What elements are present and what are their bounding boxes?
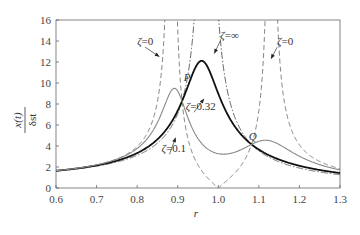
x-tick-label: 1.3 <box>333 193 347 205</box>
x-tick-label: 1.2 <box>293 193 307 205</box>
annotation-label: ζ=0.1 <box>161 142 185 155</box>
y-label-denominator: δst <box>26 114 38 127</box>
annotation-label: Q <box>249 130 257 142</box>
arrowhead-icon <box>155 53 160 57</box>
x-tick-label: 0.9 <box>171 193 185 205</box>
series-line <box>56 61 340 173</box>
y-tick-label: 4 <box>46 140 52 152</box>
y-tick-label: 16 <box>40 14 52 26</box>
series-line <box>56 0 340 175</box>
y-tick-label: 10 <box>40 77 52 89</box>
x-tick-label: 1.0 <box>211 193 225 205</box>
y-tick-label: 12 <box>40 56 51 68</box>
y-label-numerator: x(t) <box>11 112 24 129</box>
annotation-label: ζ=0.32 <box>186 100 216 113</box>
annotation-label: P <box>183 71 191 83</box>
y-tick-label: 8 <box>46 98 52 110</box>
series-line <box>56 0 340 188</box>
y-tick-label: 2 <box>46 161 52 173</box>
x-tick-label: 1.1 <box>252 193 266 205</box>
y-tick-label: 14 <box>40 35 52 47</box>
annotation-label: ζ=∞ <box>220 29 239 42</box>
x-tick-label: 0.6 <box>49 193 63 205</box>
x-tick-label: 0.7 <box>90 193 104 205</box>
x-tick-label: 0.8 <box>130 193 144 205</box>
y-axis-label: x(t) δst <box>11 107 38 133</box>
curves <box>56 0 340 188</box>
annotation-label: ζ=0 <box>137 35 154 48</box>
y-axis-ticks: 0246810121416 <box>40 14 59 194</box>
x-axis-label: r <box>194 207 199 219</box>
y-tick-label: 6 <box>46 119 52 131</box>
frequency-response-chart: 0246810121416 0.60.70.80.91.01.11.21.3 ζ… <box>0 0 360 235</box>
annotation-label: ζ=0 <box>277 35 294 48</box>
